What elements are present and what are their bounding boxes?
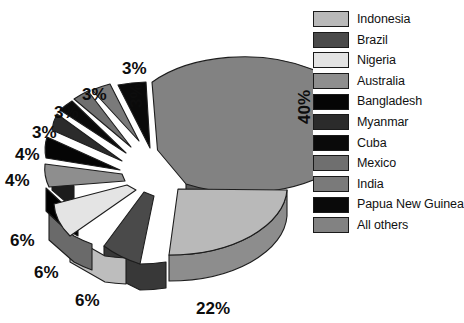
- legend-label-indonesia: Indonesia: [357, 13, 410, 26]
- pie-label-4-percent-a: 4%: [15, 146, 40, 163]
- legend-swatch-nigeria: [313, 52, 349, 68]
- legend-swatch-indonesia: [313, 11, 349, 27]
- pie-label-3-percent-d: 3%: [122, 60, 147, 77]
- legend-item-mexico[interactable]: Mexico: [313, 153, 458, 174]
- pie-graphic: .ln{stroke:#1d1d1d;stroke-width:1.1;stro…: [0, 0, 313, 323]
- legend-item-brazil[interactable]: Brazil: [313, 30, 458, 51]
- legend-label-brazil: Brazil: [357, 34, 388, 47]
- pie-label-3-percent-a: 3%: [32, 124, 57, 141]
- pie-label-6-percent-c: 6%: [75, 292, 100, 309]
- legend-swatch-myanmar: [313, 114, 349, 130]
- legend-item-papua-new-guinea[interactable]: Papua New Guinea: [313, 194, 458, 215]
- pie-label-3-percent-b: 3%: [54, 104, 79, 121]
- legend-item-india[interactable]: India: [313, 174, 458, 195]
- pie-label-40-percent: 40%: [296, 90, 313, 124]
- legend-swatch-mexico: [313, 155, 349, 171]
- pie-label-3-percent-c: 3%: [82, 86, 107, 103]
- pie-label-4-percent-b: 4%: [5, 172, 30, 189]
- pie-label-22-percent: 22%: [196, 300, 230, 317]
- legend-label-mexico: Mexico: [357, 157, 396, 170]
- legend-item-indonesia[interactable]: Indonesia: [313, 9, 458, 30]
- legend-swatch-australia: [313, 73, 349, 89]
- legend-item-bangladesh[interactable]: Bangladesh: [313, 91, 458, 112]
- legend-label-australia: Australia: [357, 75, 405, 88]
- legend-swatch-cuba: [313, 135, 349, 151]
- legend-item-cuba[interactable]: Cuba: [313, 133, 458, 154]
- legend-item-australia[interactable]: Australia: [313, 71, 458, 92]
- legend-item-all-others[interactable]: All others: [313, 215, 458, 236]
- legend-swatch-brazil: [313, 32, 349, 48]
- legend-label-all-others: All others: [357, 219, 408, 232]
- pie-label-6-percent-a: 6%: [10, 232, 35, 249]
- legend-swatch-all-others: [313, 217, 349, 233]
- legend-swatch-papua-new-guinea: [313, 197, 349, 213]
- legend-item-nigeria[interactable]: Nigeria: [313, 50, 458, 71]
- legend: Indonesia Brazil Nigeria Australia Bangl…: [313, 9, 458, 236]
- legend-label-myanmar: Myanmar: [357, 116, 408, 129]
- legend-label-india: India: [357, 178, 384, 191]
- pie-label-6-percent-b: 6%: [34, 264, 59, 281]
- slice-top-all-others: [152, 57, 313, 193]
- legend-swatch-bangladesh: [313, 94, 349, 110]
- pie-label-3-percent-vertical: 3%: [128, 83, 145, 108]
- legend-swatch-india: [313, 176, 349, 192]
- legend-label-nigeria: Nigeria: [357, 54, 396, 67]
- legend-label-bangladesh: Bangladesh: [357, 95, 422, 108]
- legend-label-papua-new-guinea: Papua New Guinea: [357, 198, 464, 211]
- legend-label-cuba: Cuba: [357, 137, 386, 150]
- legend-item-myanmar[interactable]: Myanmar: [313, 112, 458, 133]
